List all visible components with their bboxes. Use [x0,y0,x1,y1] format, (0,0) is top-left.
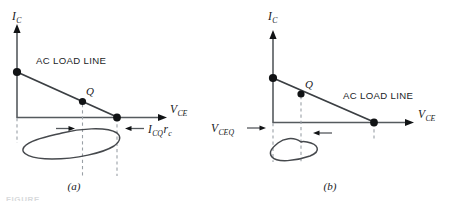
panel-b-y-axis-label: IC [267,10,278,25]
panel-a-x-axis [17,114,167,121]
panel-b-swing-label: VCEQ [211,122,234,137]
panel-a-saturation-dot [13,68,21,76]
x-axis-arrowhead [158,114,167,121]
y-axis-arrowhead [13,24,20,33]
panel-b-x-axis-label: VCE [418,108,436,123]
figure-container: IC VCE AC LOAD LINE Q ICQrc (a) [0,0,455,201]
panel-b: IC VCE AC LOAD LINE Q VCEQ (b) [211,10,436,193]
panel-a-load-line [17,72,117,117]
panel-b-saturation-dot [269,74,277,82]
figure-caption-fragment: FIGURE [6,195,40,201]
panel-a-caption: (a) [68,180,81,193]
panel-a-x-axis-label: VCE [170,103,188,118]
panel-b-caption: (b) [324,180,337,193]
panel-a-cutoff-dot [113,114,121,122]
panel-a-y-axis-label: IC [11,10,22,25]
panel-b-q-label: Q [305,78,313,90]
panel-a-signal-loop [23,129,120,159]
panel-b-cutoff-dot [370,119,378,127]
panel-b-swing-arrow-right [247,125,266,130]
panel-a: IC VCE AC LOAD LINE Q ICQrc (a) [11,10,188,193]
panel-b-load-line-label: AC LOAD LINE [343,90,413,101]
x-axis-arrowhead [405,119,414,126]
panel-b-swing-arrow-left [313,130,332,135]
panel-a-swing-arrow-left [125,126,144,131]
panel-a-q-dot [79,98,86,105]
panel-b-q-dot [297,90,304,97]
y-axis-arrowhead [269,30,276,39]
panel-a-swing-label: ICQrc [147,123,172,138]
panel-a-q-label: Q [86,85,94,97]
panel-a-load-line-label: AC LOAD LINE [36,55,106,66]
panel-b-signal-loop [270,139,317,161]
panel-b-x-axis [273,119,414,126]
figure-svg: IC VCE AC LOAD LINE Q ICQrc (a) [0,0,455,201]
